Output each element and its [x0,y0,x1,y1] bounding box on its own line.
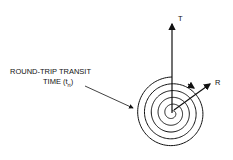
transit-time-text: TIME (t [43,77,68,86]
transit-label-line1: ROUND-TRIP TRANSIT [10,67,91,76]
t-axis-label: T [178,14,183,23]
r-axis-arrow [174,84,210,110]
transit-label-line2: TIME (trt) [43,77,73,90]
transit-arrow [188,84,194,88]
leader-line [85,86,133,108]
transit-time-close: ) [71,77,74,86]
spiral-diagram [0,0,233,160]
r-axis-label: R [215,78,220,87]
